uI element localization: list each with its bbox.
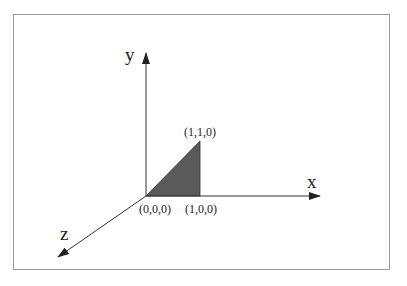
x-axis-label: x (307, 172, 317, 191)
origin-label: (0,0,0) (139, 203, 171, 215)
y-axis-label: y (125, 45, 135, 64)
z-axis-label: z (60, 224, 68, 243)
point-110-label: (1,1,0) (184, 126, 216, 138)
point-100-label: (1,0,0) (185, 203, 217, 215)
z-axis (58, 196, 146, 257)
shaded-triangle (146, 141, 200, 196)
